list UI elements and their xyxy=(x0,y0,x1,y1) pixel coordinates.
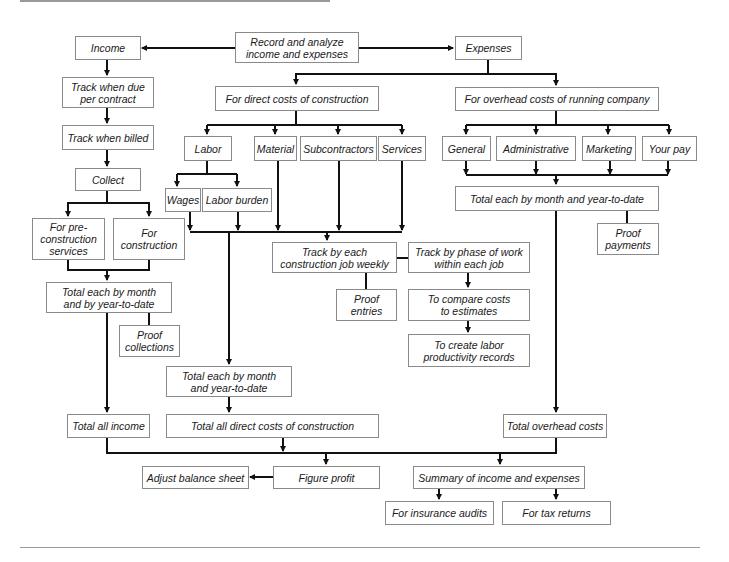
node-total-direct-costs: Total all direct costs of construction xyxy=(166,414,379,438)
node-proof-collections: Proof collections xyxy=(119,325,180,357)
node-marketing: Marketing xyxy=(582,136,636,161)
node-labor-productivity: To create labor productivity records xyxy=(408,334,530,367)
node-insurance-audits: For insurance audits xyxy=(385,501,494,525)
node-proof-payments: Proof payments xyxy=(597,223,659,255)
node-track-when-billed: Track when billed xyxy=(62,125,154,150)
node-direct-total-each: Total each by month and year-to-date xyxy=(166,366,292,397)
node-overhead-costs: For overhead costs of running company xyxy=(455,87,659,111)
node-summary: Summary of income and expenses xyxy=(413,466,585,489)
node-record-analyze: Record and analyze income and expenses xyxy=(235,32,359,63)
node-your-pay: Your pay xyxy=(642,136,697,161)
node-adjust-balance-sheet: Adjust balance sheet xyxy=(142,466,249,489)
node-administrative: Administrative xyxy=(496,136,576,161)
node-direct-costs: For direct costs of construction xyxy=(215,86,379,111)
node-for-construction: For construction xyxy=(113,218,185,260)
node-pre-construction: For pre- construction services xyxy=(32,218,105,260)
node-labor: Labor xyxy=(184,136,232,161)
node-services: Services xyxy=(378,136,426,161)
node-material: Material xyxy=(254,136,297,161)
node-track-job-weekly: Track by each construction job weekly xyxy=(272,242,397,273)
node-overhead-total-each: Total each by month and year-to-date xyxy=(455,186,659,211)
node-track-when-due: Track when due per contract xyxy=(62,77,154,108)
flowchart-canvas: Income Record and analyze income and exp… xyxy=(0,0,729,562)
node-total-overhead: Total overhead costs xyxy=(503,414,607,438)
node-proof-entries: Proof entries xyxy=(336,289,397,321)
node-general: General xyxy=(442,136,491,161)
node-income-total-each: Total each by month and by year-to-date xyxy=(46,282,172,313)
node-income: Income xyxy=(75,36,141,60)
node-figure-profit: Figure profit xyxy=(273,466,380,489)
node-collect: Collect xyxy=(75,168,141,191)
node-tax-returns: For tax returns xyxy=(502,501,611,525)
node-labor-burden: Labor burden xyxy=(202,188,272,212)
node-track-phase: Track by phase of work within each job xyxy=(408,242,530,273)
node-subcontractors: Subcontractors xyxy=(300,136,377,161)
node-compare-costs: To compare costs to estimates xyxy=(408,289,530,321)
node-wages: Wages xyxy=(165,188,201,212)
node-total-all-income: Total all income xyxy=(67,414,150,438)
node-expenses: Expenses xyxy=(455,36,522,60)
